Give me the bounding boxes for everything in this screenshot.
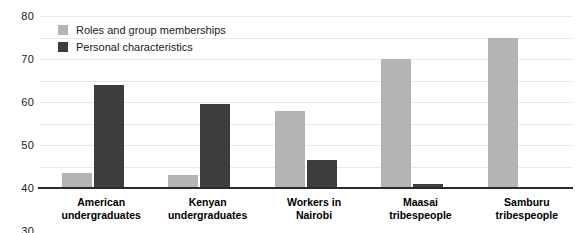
y-axis-tick-label: 40 <box>21 182 34 194</box>
legend-label: Roles and group memberships <box>76 24 226 36</box>
bar <box>200 104 230 188</box>
x-axis-category-label: Workers inNairobi <box>253 196 359 222</box>
chart-legend: Roles and group membershipsPersonal char… <box>58 22 226 56</box>
x-axis-category-label-line: tribespeople <box>375 209 465 222</box>
bar-group <box>253 16 359 188</box>
legend-swatch-icon <box>58 42 68 52</box>
x-axis-labels: AmericanundergraduatesKenyanundergraduat… <box>40 196 572 222</box>
x-axis-category-label: Maasaitribespeople <box>359 196 465 222</box>
bar <box>307 160 337 188</box>
x-axis-line <box>38 187 573 189</box>
legend-item: Personal characteristics <box>58 39 226 54</box>
x-axis-category-label-line: Workers in <box>287 196 341 208</box>
x-axis-category-label-line: Nairobi <box>269 209 359 222</box>
bar <box>275 111 305 188</box>
bar <box>62 173 92 188</box>
x-axis-category-label: Samburutribespeople <box>466 196 572 222</box>
legend-label: Personal characteristics <box>76 41 193 53</box>
y-axis-tick-label: 70 <box>21 53 34 65</box>
bar <box>381 59 411 188</box>
x-axis-category-label-line: undergraduates <box>56 209 146 222</box>
x-axis-category-label-line: Kenyan <box>189 196 227 208</box>
x-axis-category-label: Kenyanundergraduates <box>146 196 252 222</box>
bar-chart: 01020304050607080 Americanundergraduates… <box>0 0 578 233</box>
x-axis-category-label-line: American <box>77 196 125 208</box>
y-axis-tick-label: 50 <box>21 139 34 151</box>
y-axis-tick-label: 80 <box>21 10 34 22</box>
bar-group <box>466 16 572 188</box>
x-axis-category-label-line: tribespeople <box>482 209 572 222</box>
legend-item: Roles and group memberships <box>58 22 226 37</box>
x-axis-category-label: Americanundergraduates <box>40 196 146 222</box>
legend-swatch-icon <box>58 25 68 35</box>
x-axis-category-label-line: Maasai <box>403 196 438 208</box>
bar <box>488 38 518 189</box>
bar-group <box>359 16 465 188</box>
x-axis-category-label-line: Samburu <box>504 196 550 208</box>
x-axis-category-label-line: undergraduates <box>162 209 252 222</box>
y-axis-tick-label: 60 <box>21 96 34 108</box>
bar <box>94 85 124 188</box>
y-axis-tick-label: 30 <box>21 225 34 233</box>
